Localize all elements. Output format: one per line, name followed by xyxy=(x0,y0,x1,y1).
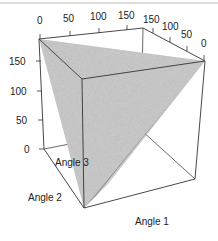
tick-label-right-150: 150 xyxy=(143,15,160,25)
tick-label-right-100: 100 xyxy=(162,22,179,32)
tick-label-top-0: 0 xyxy=(37,16,43,26)
tick-label-right-50: 50 xyxy=(181,30,192,40)
tick-label-right-0: 0 xyxy=(201,39,207,49)
tick-label-top-100: 100 xyxy=(90,12,107,22)
tick-label-top-150: 150 xyxy=(118,11,135,21)
tick-label-left-0: 0 xyxy=(24,145,30,155)
axis-label-angle-2: Angle 2 xyxy=(28,193,62,203)
tick-label-left-100: 100 xyxy=(10,87,27,97)
tick-label-left-150: 150 xyxy=(9,57,26,67)
tick-label-left-50: 50 xyxy=(16,116,27,126)
axis-label-angle-3: Angle 3 xyxy=(55,158,89,168)
axis-label-angle-1: Angle 1 xyxy=(135,217,169,227)
tick-label-top-50: 50 xyxy=(63,14,74,24)
